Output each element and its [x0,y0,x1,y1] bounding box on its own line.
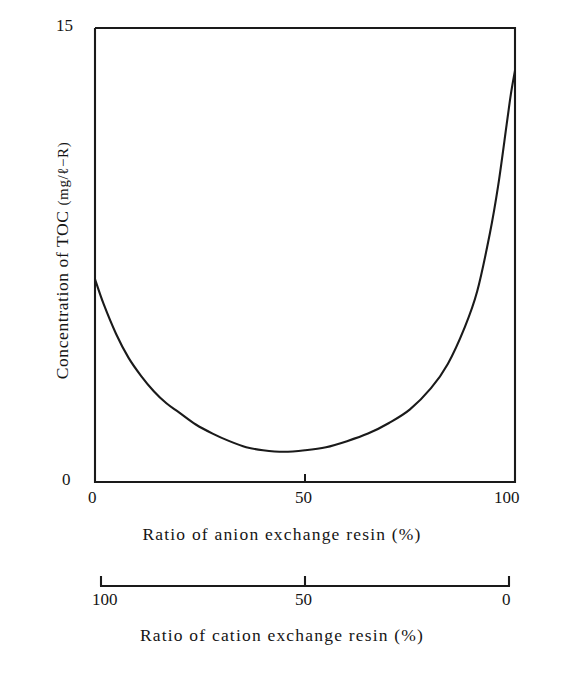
xaxis-primary-tick-label-right: 100 [494,488,520,508]
yaxis-title-unit: (mg/ℓ−R) [55,142,71,206]
xaxis-secondary-title: Ratio of cation exchange resin (%) [0,625,564,646]
plot-frame [95,28,515,482]
secondary-axis [100,576,510,586]
xaxis-primary-tick-label-left: 0 [88,488,97,508]
xaxis-primary-title: Ratio of anion exchange resin (%) [0,524,564,545]
chart-figure: 15 0 0 50 100 100 50 0 Ratio of anion ex… [0,0,564,674]
xaxis-secondary-tick-label-right: 0 [502,590,511,610]
xaxis-secondary-tick-label-left: 100 [92,590,118,610]
toc-concentration-curve [95,70,515,451]
chart-plot-area [0,0,564,674]
yaxis-title: Concentration of TOC (mg/ℓ−R) [52,31,73,491]
yaxis-title-text: Concentration of TOC [52,210,72,379]
xaxis-primary-tick-label-mid: 50 [295,488,312,508]
xaxis-secondary-tick-label-mid: 50 [295,590,312,610]
